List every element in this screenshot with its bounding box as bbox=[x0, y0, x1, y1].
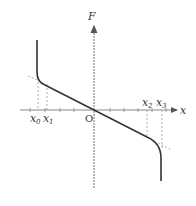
marker-x2: x 2 bbox=[142, 96, 153, 110]
force-graph: F x O x 0 x 1 x 2 x 3 bbox=[0, 0, 196, 206]
svg-text:1: 1 bbox=[49, 118, 53, 126]
f-axis-label: F bbox=[87, 10, 96, 23]
origin-label: O bbox=[85, 113, 93, 124]
marker-x3: x 3 bbox=[156, 96, 167, 110]
svg-text:0: 0 bbox=[36, 118, 41, 126]
svg-text:3: 3 bbox=[162, 102, 167, 110]
svg-text:2: 2 bbox=[147, 102, 153, 110]
marker-x1: x 1 bbox=[43, 112, 53, 126]
x-axis-label: x bbox=[180, 104, 187, 117]
marker-x0: x 0 bbox=[30, 112, 41, 126]
